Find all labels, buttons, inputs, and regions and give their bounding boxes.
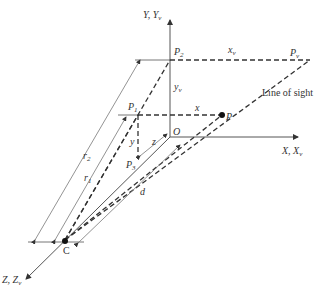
x-axis-label: X, Xv — [281, 145, 303, 158]
r2-dimension — [35, 60, 140, 240]
y-axis-label: Y, Yv — [143, 9, 162, 22]
projection-diagram: Y, Yv X, Xv Z, Zv P2 Pv P1 P P3 O C xv y… — [0, 0, 324, 298]
point-c — [62, 238, 68, 244]
c-to-p1 — [65, 115, 138, 240]
origin-label: O — [173, 126, 180, 137]
r2-label: r2 — [83, 150, 91, 163]
z-label: z — [151, 136, 156, 147]
y-label: y — [129, 136, 135, 147]
z-axis-label: Z, Zv — [2, 274, 22, 287]
p3-label: P3 — [125, 159, 136, 172]
p-label: P — [225, 111, 232, 122]
x-label: x — [194, 102, 200, 113]
p1-label: P1 — [127, 101, 138, 114]
r1-label: r1 — [84, 172, 91, 185]
c-label: C — [63, 245, 70, 256]
yv-label: yv — [173, 81, 182, 94]
z-axis — [26, 137, 170, 279]
d-label: d — [140, 186, 146, 197]
point-p — [219, 112, 225, 118]
xv-label: xv — [227, 44, 236, 57]
p2-label: P2 — [173, 46, 184, 59]
pv-label: Pv — [289, 47, 300, 60]
line-of-sight-label: Line of sight — [262, 87, 313, 98]
